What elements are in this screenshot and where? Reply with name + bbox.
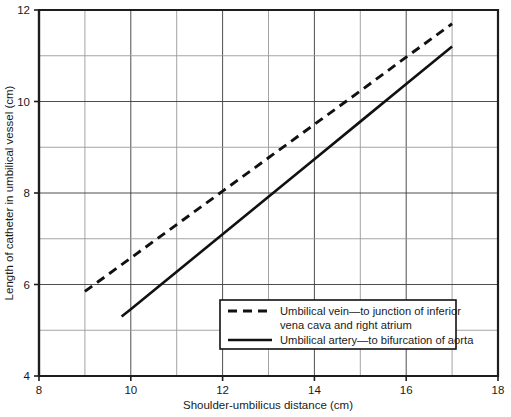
y-tick-label: 12 bbox=[17, 4, 30, 16]
y-tick-labels-group: 4681012 bbox=[17, 4, 30, 382]
x-tick-label: 12 bbox=[216, 384, 229, 396]
line-chart-svg: 81012141618 4681012 Shoulder-umbilicus d… bbox=[0, 0, 511, 417]
x-axis-title: Shoulder-umbilicus distance (cm) bbox=[183, 399, 353, 411]
y-tick-label: 10 bbox=[17, 96, 30, 108]
x-tick-label: 14 bbox=[308, 384, 321, 396]
y-axis-title: Length of catheter in umbilical vessel (… bbox=[3, 85, 15, 300]
legend-entry-0-line1: Umbilical vein—to junction of inferior bbox=[280, 305, 461, 317]
x-tick-label: 8 bbox=[36, 384, 42, 396]
x-tick-label: 10 bbox=[124, 384, 137, 396]
legend-entry-1-line1: Umbilical artery—to bifurcation of aorta bbox=[280, 334, 474, 346]
x-tick-label: 16 bbox=[400, 384, 413, 396]
x-tick-labels-group: 81012141618 bbox=[36, 384, 505, 396]
y-tick-label: 4 bbox=[24, 370, 31, 382]
x-tick-label: 18 bbox=[492, 384, 505, 396]
chart-figure: 81012141618 4681012 Shoulder-umbilicus d… bbox=[0, 0, 511, 417]
y-tick-label: 6 bbox=[24, 279, 30, 291]
y-tick-label: 8 bbox=[24, 187, 30, 199]
chart-legend: Umbilical vein—to junction of inferior v… bbox=[220, 300, 474, 349]
legend-entry-0-line2: vena cava and right atrium bbox=[280, 319, 412, 331]
